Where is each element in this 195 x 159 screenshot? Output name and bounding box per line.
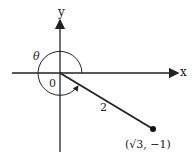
origin-label: 0	[49, 78, 56, 89]
y-axis-label: y	[58, 6, 65, 18]
endpoint-dot	[150, 126, 156, 132]
segment-length-label: 2	[100, 102, 107, 113]
point-label: (√3, −1)	[125, 139, 171, 150]
polar-diagram	[0, 0, 195, 159]
x-axis-label: x	[180, 66, 187, 78]
angle-label: θ	[33, 51, 40, 62]
